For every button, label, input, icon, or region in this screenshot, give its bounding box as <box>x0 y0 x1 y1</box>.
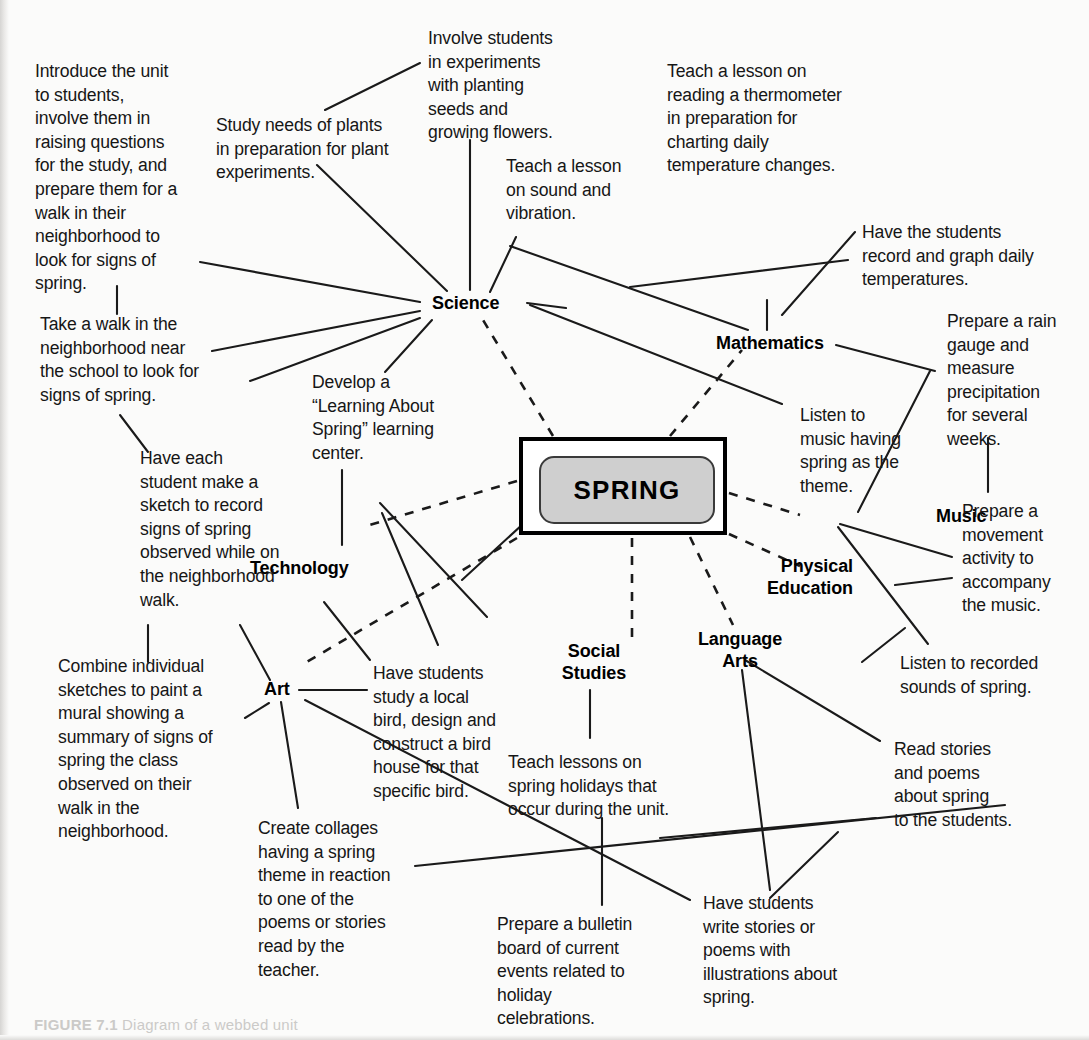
edge-technology-birdhouse <box>382 513 438 645</box>
edge-recorded-sounds-upper <box>862 628 905 662</box>
edge-sound-vibration-science <box>490 237 516 292</box>
activity-note-learning-center: Develop a “Learning About Spring” learni… <box>312 371 462 465</box>
page-scan-edge-bottom <box>0 1035 1089 1040</box>
concept-map-figure: SPRING Science Mathematics Music Physica… <box>0 0 1089 1040</box>
edge-technology-diag <box>380 503 487 617</box>
edge-record-graph-mathematics <box>782 232 855 315</box>
edge-pe-movement <box>895 578 952 585</box>
activity-note-sound-and-vibration: Teach a lesson on sound and vibration. <box>506 155 646 226</box>
activity-note-sketch-signs-of-spring: Have each student make a sketch to recor… <box>140 447 300 612</box>
edge-music-movement <box>840 524 952 557</box>
activity-note-take-a-walk: Take a walk in the neighborhood near the… <box>40 313 245 407</box>
subject-node-mathematics: Mathematics <box>716 332 824 354</box>
dashed-edge-spring-mathematics <box>670 350 742 436</box>
edge-science-learning-center <box>385 320 432 372</box>
dashed-edge-spring-technology <box>363 481 517 527</box>
figure-caption-text: Diagram of a webbed unit <box>122 1016 298 1033</box>
activity-note-music-spring-theme: Listen to music having spring as the the… <box>800 404 930 498</box>
subject-node-physical-education: Physical Education <box>693 555 853 599</box>
edge-technology-lower <box>324 602 370 660</box>
activity-note-reading-a-thermometer: Teach a lesson on reading a thermometer … <box>667 60 882 178</box>
subject-node-art: Art <box>264 678 290 700</box>
edge-write-stories-read-stories <box>770 832 838 898</box>
subject-node-science: Science <box>432 292 499 314</box>
tick-language-arts <box>742 670 770 890</box>
activity-note-bird-house: Have students study a local bird, design… <box>373 662 533 804</box>
edge-crossing-science-mathematics <box>530 305 782 404</box>
central-theme-label: SPRING <box>574 475 681 506</box>
activity-note-record-and-graph-temperatures: Have the students record and graph daily… <box>862 221 1077 292</box>
central-theme-inner: SPRING <box>539 456 715 524</box>
edge-involve-students-upper <box>325 63 420 110</box>
activity-note-write-stories-or-poems: Have students write stories or poems wit… <box>703 892 878 1010</box>
activity-note-read-stories-and-poems: Read stories and poems about spring to t… <box>894 738 1054 832</box>
activity-note-recorded-sounds-of-spring: Listen to recorded sounds of spring. <box>900 652 1080 699</box>
figure-caption: FIGURE 7.1 Diagram of a webbed unit <box>34 1016 298 1033</box>
edge-science-right-arm <box>527 303 566 308</box>
edge-art-collages <box>281 702 298 808</box>
edge-record-graph-left <box>630 260 848 287</box>
figure-caption-prefix: FIGURE <box>34 1016 92 1033</box>
activity-note-combine-sketches-mural: Combine individual sketches to paint a m… <box>58 655 258 844</box>
page-scan-edge-left <box>0 0 9 1040</box>
edge-mathematics-rain-gauge <box>836 345 935 371</box>
edge-language-arts-read-stories <box>745 660 880 741</box>
subject-node-language-arts: Language Arts <box>686 628 794 672</box>
edge-mathematics-left-arm <box>510 246 748 330</box>
figure-caption-number: 7.1 <box>96 1016 117 1033</box>
activity-note-spring-holidays: Teach lessons on spring holidays that oc… <box>508 751 703 822</box>
activity-note-rain-gauge: Prepare a rain gauge and measure precipi… <box>947 310 1077 452</box>
activity-note-involve-students-experiments: Involve students in experiments with pla… <box>428 27 578 145</box>
activity-note-introduce-unit: Introduce the unit to students, involve … <box>35 60 220 296</box>
dashed-edge-spring-science <box>483 320 553 436</box>
activity-note-create-collages: Create collages having a spring theme in… <box>258 817 418 982</box>
subject-node-social-studies: Social Studies <box>541 640 647 684</box>
activity-note-study-needs-of-plants: Study needs of plants in preparation for… <box>216 114 431 185</box>
central-theme-box: SPRING <box>519 437 727 535</box>
dashed-edge-spring-music <box>729 493 800 515</box>
activity-note-bulletin-board: Prepare a bulletin board of current even… <box>497 913 677 1031</box>
edge-introduce-unit-science <box>200 262 420 302</box>
activity-note-movement-activity: Prepare a movement activity to accompany… <box>962 500 1084 618</box>
